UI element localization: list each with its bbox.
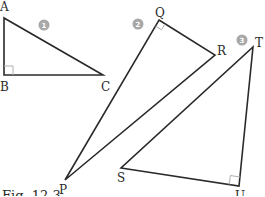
badge-number-1: 1 bbox=[42, 22, 47, 30]
vertex-label-u: U bbox=[235, 189, 245, 196]
right-angle-marker-b bbox=[4, 66, 13, 75]
badge-number-2: 2 bbox=[136, 21, 141, 29]
triangle-1: A B C 1 bbox=[0, 0, 110, 94]
triangle-number-badge-3: 3 bbox=[237, 35, 248, 46]
vertex-label-c: C bbox=[101, 80, 110, 94]
vertex-label-s: S bbox=[117, 171, 125, 185]
vertex-label-r: R bbox=[217, 44, 227, 58]
vertex-label-b: B bbox=[0, 80, 9, 94]
triangle-2: Q R P 2 bbox=[59, 6, 227, 196]
triangle-abc bbox=[4, 18, 103, 75]
triangle-number-badge-1: 1 bbox=[39, 20, 50, 31]
badge-number-3: 3 bbox=[240, 37, 245, 45]
right-triangles-figure: A B C 1 Q R P 2 T S U bbox=[0, 0, 265, 196]
triangle-pqr bbox=[65, 20, 215, 180]
vertex-label-t: T bbox=[255, 36, 263, 50]
right-angle-marker-u bbox=[229, 176, 240, 185]
triangle-3: T S U 3 bbox=[117, 35, 263, 197]
vertex-label-a: A bbox=[0, 0, 9, 14]
vertex-label-q: Q bbox=[155, 6, 165, 20]
figure-caption: Fig. 12.3 bbox=[2, 188, 61, 196]
triangle-number-badge-2: 2 bbox=[133, 19, 144, 30]
